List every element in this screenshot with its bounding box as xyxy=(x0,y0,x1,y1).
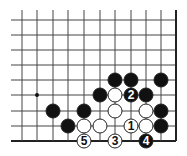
move-number-label: 5 xyxy=(81,134,88,148)
black-stone xyxy=(77,104,91,118)
black-stone xyxy=(154,119,168,133)
move-number-label: 2 xyxy=(128,88,135,102)
black-stone-move-4: 4 xyxy=(139,134,153,148)
white-stone xyxy=(93,119,107,133)
star-points xyxy=(35,93,39,97)
white-stone xyxy=(108,104,122,118)
move-number-label: 1 xyxy=(128,119,135,133)
black-stone xyxy=(154,73,168,87)
white-stone-move-1: 1 xyxy=(124,119,138,133)
white-stone xyxy=(108,88,122,102)
star-point xyxy=(35,93,39,97)
black-stone xyxy=(108,73,122,87)
black-stone xyxy=(154,104,168,118)
white-stone-move-3: 3 xyxy=(108,134,122,148)
black-stone xyxy=(124,73,138,87)
go-board: 21534 xyxy=(0,0,187,156)
black-stone xyxy=(93,88,107,102)
black-stone-move-2: 2 xyxy=(124,88,138,102)
black-stone xyxy=(61,119,75,133)
white-stone xyxy=(139,104,153,118)
white-stone xyxy=(139,119,153,133)
white-stone xyxy=(77,119,91,133)
white-stone-move-5: 5 xyxy=(77,134,91,148)
move-number-label: 3 xyxy=(112,134,119,148)
move-number-label: 4 xyxy=(143,134,150,148)
black-stone xyxy=(139,88,153,102)
black-stone xyxy=(46,104,60,118)
